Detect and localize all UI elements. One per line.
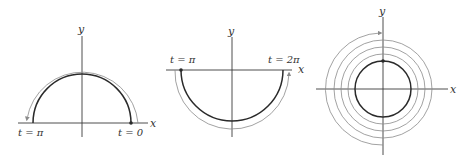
y-axis-label: y — [378, 5, 386, 18]
start-point — [381, 59, 385, 63]
direction-arc — [27, 72, 138, 123]
y-axis-label: y — [227, 25, 235, 38]
start-point — [179, 68, 183, 72]
x-axis-label: x — [150, 117, 157, 130]
label-t-pi: t = π — [170, 54, 196, 65]
panel-upper-semicircle: x y t = π t = 0 — [18, 23, 157, 138]
label-t-2pi: t = 2π — [268, 54, 300, 65]
panel-lower-semicircle: x y t = π t = 2π — [166, 25, 305, 137]
parametric-curves-figure: x y t = π t = 0 x y t = π t = 2π x y — [0, 0, 471, 162]
label-t-pi: t = π — [18, 127, 44, 138]
y-axis-label: y — [77, 23, 85, 36]
start-point — [129, 121, 133, 125]
x-axis-label: x — [450, 83, 457, 96]
panel-full-circle: x y — [316, 5, 457, 155]
label-t-0: t = 0 — [118, 127, 144, 138]
